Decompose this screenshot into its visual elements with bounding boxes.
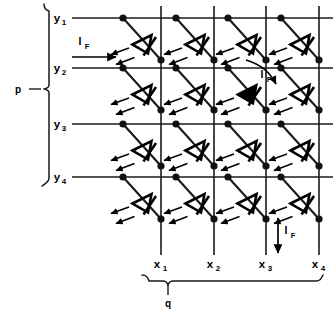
- current-marker-active-cell: I F: [246, 60, 276, 84]
- current-label-active-subscript: F: [267, 75, 272, 84]
- current-marker-input-row2: I F: [72, 35, 116, 57]
- led-cell-r2c1[interactable]: [111, 64, 165, 114]
- row-group-label-p: p: [15, 84, 21, 95]
- column-group-brace: q: [142, 275, 323, 309]
- led-cell-r1c3[interactable]: [216, 14, 270, 64]
- col-label-x4-subscript: 4: [321, 264, 326, 273]
- current-marker-output-col3: I F: [278, 218, 296, 253]
- col-label-x4: x: [312, 258, 319, 270]
- row-label-y3-subscript: 3: [62, 124, 67, 133]
- row-labels: y 1 y 2 y 3 y 4: [54, 12, 67, 186]
- row-label-y1-subscript: 1: [62, 18, 67, 27]
- led-cell-grid: [111, 14, 323, 223]
- row-group-brace: p: [15, 4, 49, 186]
- led-cell-r3c1[interactable]: [111, 120, 165, 170]
- col-label-x2-subscript: 2: [216, 264, 221, 273]
- col-label-x3: x: [259, 258, 266, 270]
- row-label-y4: y: [54, 171, 61, 183]
- row-label-y2: y: [54, 62, 61, 74]
- led-cell-r1c1[interactable]: [111, 14, 165, 64]
- current-label-output-subscript: F: [291, 231, 296, 240]
- row-label-y3: y: [54, 118, 61, 130]
- column-group-label-q: q: [165, 298, 171, 309]
- row-label-y4-subscript: 4: [62, 177, 67, 186]
- led-cell-r3c3[interactable]: [216, 120, 270, 170]
- current-label-output: I: [285, 224, 288, 236]
- led-cell-r4c2[interactable]: [164, 173, 218, 223]
- col-label-x3-subscript: 3: [268, 264, 273, 273]
- led-matrix-diagram: y 1 y 2 y 3 y 4 x 1 x 2 x 3 x 4 p q I F: [0, 0, 336, 315]
- row-label-y1: y: [54, 12, 61, 24]
- led-cell-r2c2[interactable]: [164, 64, 218, 114]
- current-label-input: I: [79, 35, 82, 47]
- led-matrix-svg: y 1 y 2 y 3 y 4 x 1 x 2 x 3 x 4 p q I F: [0, 0, 336, 315]
- led-cell-r4c4[interactable]: [269, 173, 323, 223]
- col-label-x1: x: [154, 258, 161, 270]
- current-label-input-subscript: F: [85, 42, 90, 51]
- col-label-x1-subscript: 1: [163, 264, 168, 273]
- led-cell-r1c4[interactable]: [269, 14, 323, 64]
- led-cell-r3c4[interactable]: [269, 120, 323, 170]
- led-cell-r1c2[interactable]: [164, 14, 218, 64]
- row-label-y2-subscript: 2: [62, 68, 67, 77]
- curly-brace-icon-bottom: [142, 275, 323, 285]
- col-label-x2: x: [207, 258, 214, 270]
- led-cell-r4c1[interactable]: [111, 173, 165, 223]
- led-cell-r2c4[interactable]: [269, 64, 323, 114]
- column-labels: x 1 x 2 x 3 x 4: [154, 258, 326, 273]
- curly-brace-icon-left: [42, 4, 49, 186]
- led-cell-r4c3[interactable]: [216, 173, 270, 223]
- current-label-active: I: [261, 68, 264, 80]
- led-cell-r3c2[interactable]: [164, 120, 218, 170]
